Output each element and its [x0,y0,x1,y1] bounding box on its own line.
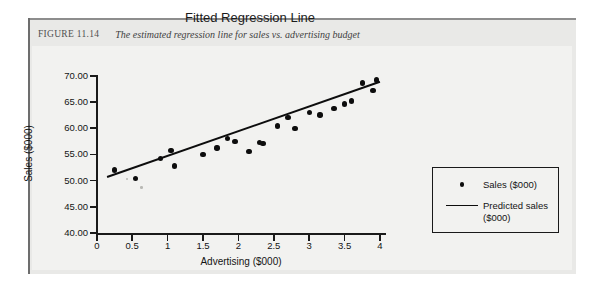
legend-label-predicted: Predicted sales ($000) [483,200,548,223]
chart-legend: Sales ($000) Predicted sales ($000) [432,167,559,233]
legend-label-sales: Sales ($000) [483,179,537,191]
legend-item-sales: Sales ($000) [441,179,537,191]
panel-top-rule [28,18,576,20]
figure-caption: FIGURE 11.14 The estimated regression li… [38,26,360,42]
figure-number: FIGURE 11.14 [38,29,99,39]
legend-marker-dot-icon [441,179,483,190]
chart-card [32,46,572,270]
figure-page: FIGURE 11.14 The estimated regression li… [0,0,604,298]
figure-caption-text: The estimated regression line for sales … [115,29,360,40]
legend-item-predicted: Predicted sales ($000) [441,200,548,223]
legend-marker-line-icon [441,200,483,211]
panel-left-rule [28,18,30,274]
